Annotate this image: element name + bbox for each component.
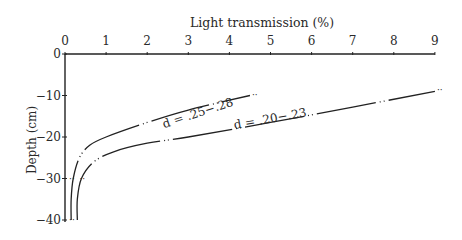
x-tick-label: 6 [308,35,316,47]
y-tick-label: 0 [53,48,61,60]
y-tick-label: −10 [36,90,61,102]
svg-text:··: ·· [69,215,75,225]
series-line-1 [71,96,250,221]
x-tick-label: 1 [102,35,110,47]
x-tick-label: 8 [390,35,398,47]
x-axis-label: Light transmission (%) [190,17,334,29]
svg-text:··: ·· [69,174,75,184]
x-tick-label: 2 [143,35,151,47]
svg-text:··: ·· [79,174,85,184]
x-tick-label: 4 [226,35,234,47]
series-line-2 [77,91,435,220]
x-tick-label: 9 [431,35,439,47]
chart: ·········· Light transmission (%) Depth … [0,0,462,240]
x-tick-label: 3 [184,35,192,47]
y-tick-label: −20 [36,131,61,143]
x-tick-label: 7 [349,35,357,47]
svg-text:··: ·· [437,85,443,95]
svg-text:··: ·· [252,90,258,100]
y-tick-label: −40 [36,214,61,226]
x-tick-label: 5 [267,35,275,47]
y-tick-label: −30 [36,173,61,185]
x-tick-label: 0 [61,35,69,47]
